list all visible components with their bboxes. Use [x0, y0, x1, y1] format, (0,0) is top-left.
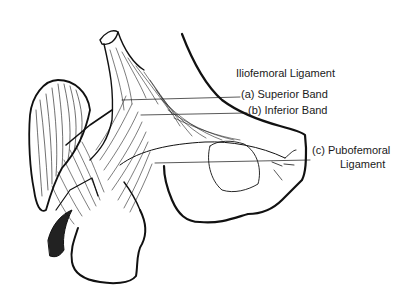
- label-iliofemoral-ligament: Iliofemoral Ligament: [236, 67, 335, 79]
- femur-outline: [71, 210, 145, 283]
- leader-inferior-band: [141, 113, 247, 115]
- label-superior-band: (a) Superior Band: [241, 88, 328, 100]
- label-pubofemoral: (c) Pubofemoral: [312, 144, 390, 156]
- trochanter-shadow: [48, 210, 72, 257]
- label-pubofemoral-ligament: Ligament: [340, 158, 385, 170]
- label-inferior-band: (b) Inferior Band: [248, 104, 327, 116]
- acetabulum: [209, 141, 260, 191]
- leader-pubofemoral: [155, 160, 310, 163]
